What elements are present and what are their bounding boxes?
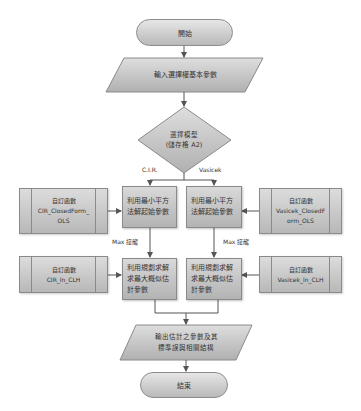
cir-ols-function-box: 自訂函數 CIR_ClosedForm_ OLS — [19, 188, 108, 234]
cir-mle-label: 利用規劃求解求最大概似估計參數 — [127, 263, 172, 296]
vasicek-ols-function-box: 自訂函數 Vasicek_ClosedF orm_OLS — [259, 188, 342, 234]
vasicek-mle-function-box: 自訂函數 Vasicek_ln_CLH — [259, 256, 342, 293]
cir-ols-function-name1: CIR_ClosedForm_ — [38, 206, 89, 216]
cir-mle-function-title: 自訂函數 — [52, 265, 76, 275]
decision-text: 選擇模型 (儲存格 A2) — [150, 122, 218, 158]
cir-ols-function-title: 自訂函數 — [52, 196, 76, 206]
branch-label-cir: C.I.R. — [142, 166, 158, 173]
vasicek-mle-label: 利用規劃求解求最大概似估計參數 — [191, 263, 237, 296]
vasicek-mle-process: 利用規劃求解求最大概似估計參數 — [186, 258, 242, 300]
output-line1: 輸出估計之參數及其 — [155, 332, 218, 343]
cir-mle-function-box: 自訂函數 CIR_ln_CLH — [19, 256, 108, 293]
output-line2: 標準誤與相關結構 — [158, 343, 214, 354]
decision-line2: (儲存格 A2) — [166, 140, 203, 150]
cir-mle-function-name: CIR_ln_CLH — [47, 275, 81, 285]
start-terminator: 開始 — [136, 19, 233, 46]
vasicek-ols-label: 利用最小平方法解起始參數 — [191, 196, 237, 218]
vasicek-ols-process: 利用最小平方法解起始參數 — [186, 186, 242, 228]
cir-ols-process: 利用最小平方法解起始參數 — [122, 186, 177, 228]
end-terminator: 結束 — [140, 372, 228, 398]
vasicek-ols-function-name2: orm_OLS — [287, 216, 314, 226]
cir-ols-function-name2: OLS — [58, 216, 70, 226]
input-label: 輸入選擇權基本參數 — [154, 70, 217, 81]
vasicek-ols-function-title: 自訂函數 — [289, 196, 313, 206]
end-label: 結束 — [177, 380, 191, 390]
input-text: 輸入選擇權基本參數 — [115, 58, 255, 92]
cir-ols-label: 利用最小平方法解起始參數 — [127, 196, 172, 218]
vasicek-mle-function-title: 自訂函數 — [289, 265, 313, 275]
max-label-right: Max 接龍 — [223, 237, 249, 246]
branch-label-vasicek: Vasicek — [199, 166, 222, 173]
max-label-left: Max 接龍 — [112, 237, 138, 246]
decision-line1: 選擇模型 — [170, 130, 198, 140]
output-text: 輸出估計之參數及其 標準誤與相關結構 — [130, 325, 242, 360]
cir-mle-process: 利用規劃求解求最大概似估計參數 — [122, 258, 177, 300]
start-label: 開始 — [178, 28, 192, 38]
vasicek-mle-function-name: Vasicek_ln_CLH — [277, 275, 323, 285]
vasicek-ols-function-name1: Vasicek_ClosedF — [276, 206, 325, 216]
